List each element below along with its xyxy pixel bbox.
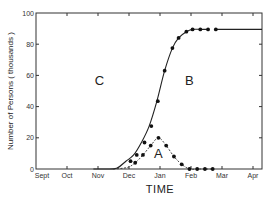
region-label-a: A bbox=[154, 146, 163, 161]
series-c-marker bbox=[214, 27, 218, 31]
series-a-marker bbox=[164, 144, 168, 148]
epidemic-chart: 020406080100 SeptOctNovDecJanFebMarApr N… bbox=[0, 0, 279, 201]
series-c-marker bbox=[135, 153, 139, 157]
series-c-marker bbox=[129, 159, 133, 163]
x-tick-label: Apr bbox=[248, 172, 260, 180]
series-c-marker bbox=[184, 30, 188, 34]
y-tick-label: 60 bbox=[26, 72, 34, 79]
series-a-marker bbox=[203, 167, 207, 171]
x-tick-label: Oct bbox=[62, 172, 73, 179]
y-tick-label: 100 bbox=[22, 10, 34, 17]
y-axis: 020406080100 bbox=[22, 10, 262, 173]
data-series bbox=[93, 27, 262, 170]
series-a-marker bbox=[195, 167, 199, 171]
y-tick-label: 0 bbox=[30, 166, 34, 173]
series-a-marker bbox=[149, 144, 153, 148]
x-axis: SeptOctNovDecJanFebMarApr bbox=[35, 13, 259, 180]
y-tick-label: 40 bbox=[26, 103, 34, 110]
series-a-marker bbox=[157, 136, 161, 140]
x-tick-label: Jan bbox=[154, 172, 165, 179]
series-a-marker bbox=[133, 161, 137, 165]
region-labels: CBA bbox=[95, 73, 194, 161]
series-c-marker bbox=[171, 46, 175, 50]
x-tick-label: Mar bbox=[216, 172, 229, 179]
y-tick-label: 80 bbox=[26, 41, 34, 48]
region-label-b: B bbox=[185, 73, 194, 88]
x-tick-label: Nov bbox=[92, 172, 105, 179]
y-tick-label: 20 bbox=[26, 134, 34, 141]
series-c-marker bbox=[206, 27, 210, 31]
series-c-marker bbox=[143, 141, 147, 145]
series-c-marker bbox=[156, 99, 160, 103]
x-tick-label: Sept bbox=[35, 172, 49, 180]
series-c-marker bbox=[177, 36, 181, 40]
series-c-marker bbox=[149, 124, 153, 128]
y-axis-title: Number of Persons ( thousands ) bbox=[6, 32, 15, 150]
series-c-marker bbox=[191, 27, 195, 31]
series-a-line bbox=[114, 138, 213, 170]
series-c-line bbox=[93, 29, 208, 169]
series-a-marker bbox=[211, 167, 215, 171]
series-a-marker bbox=[188, 167, 192, 171]
x-tick-label: Feb bbox=[185, 172, 197, 179]
x-axis-title: TIME bbox=[146, 183, 174, 195]
series-c-marker bbox=[163, 69, 167, 73]
region-label-c: C bbox=[95, 73, 104, 88]
series-a-marker bbox=[141, 153, 145, 157]
series-c-marker bbox=[198, 27, 202, 31]
x-tick-label: Dec bbox=[123, 172, 136, 179]
series-a-marker bbox=[172, 155, 176, 159]
series-a-marker bbox=[180, 162, 184, 166]
